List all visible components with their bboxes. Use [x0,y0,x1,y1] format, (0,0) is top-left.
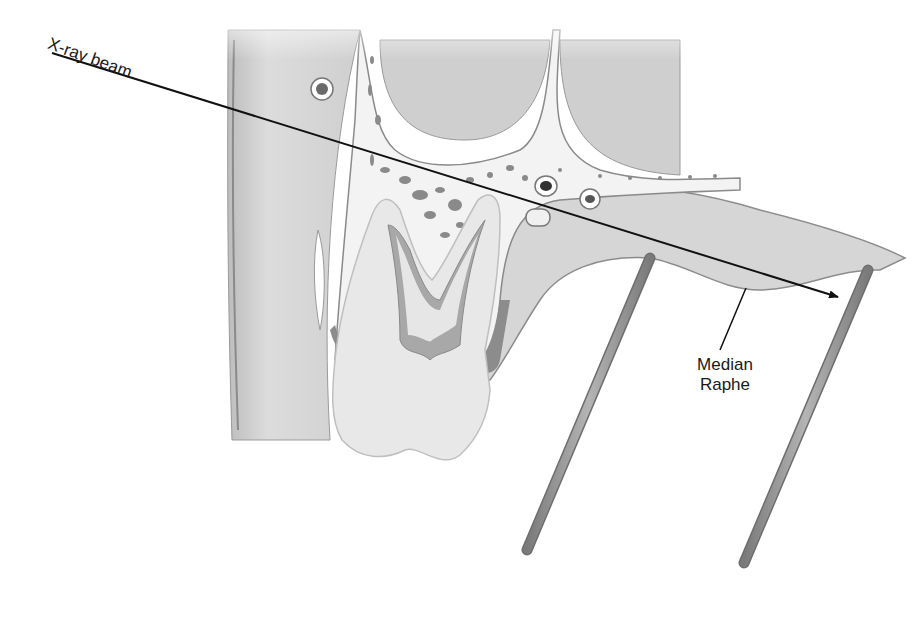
median-raphe-leader-line [720,288,746,350]
anatomy-illustration [0,0,922,627]
film-holder-rods [527,258,868,563]
median-raphe-label-line2: Raphe [680,375,770,395]
top-fade [200,0,922,60]
diagram-figure: X-ray beam Median Raphe [0,0,922,627]
median-raphe-label: Median Raphe [680,355,770,395]
median-raphe-label-line1: Median [680,355,770,375]
